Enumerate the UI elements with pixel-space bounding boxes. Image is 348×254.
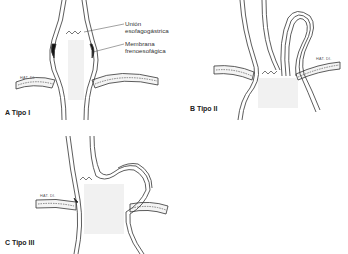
diaphragm-label-c: HAT. DI. [40,194,55,198]
membrane-label-line1: Membrana [125,40,155,47]
panel-c-label: C Tipo III [5,239,34,246]
hiatal-hernia-diagram [0,0,348,254]
gej-label-line2: esofagogástrica [125,27,169,34]
panel-c-drawing [36,136,168,254]
diaphragm-label-b: HAT. DI. [316,57,331,61]
gej-label-line1: Unión [125,20,141,27]
panel-a-label: A Tipo I [5,109,30,116]
membrane-label-line2: frenoesofágica [125,47,166,54]
panel-b-label: B Tipo II [190,105,217,112]
diaphragm-label-a: HAT. DI. [20,76,35,80]
panel-a-drawing [16,0,158,120]
